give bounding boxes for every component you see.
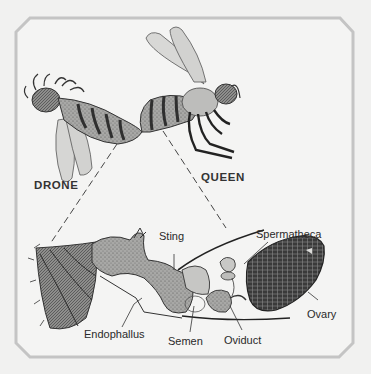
oviduct-label: Oviduct bbox=[224, 335, 261, 346]
semen-label: Semen bbox=[168, 336, 203, 347]
endophallus-label: Endophallus bbox=[84, 329, 145, 340]
queen-label: QUEEN bbox=[201, 172, 245, 184]
sting-label: Sting bbox=[159, 231, 184, 242]
ovary-label: Ovary bbox=[307, 309, 336, 320]
spermatheca-label: Spermatheca bbox=[256, 229, 321, 240]
drone-label: DRONE bbox=[34, 180, 79, 192]
